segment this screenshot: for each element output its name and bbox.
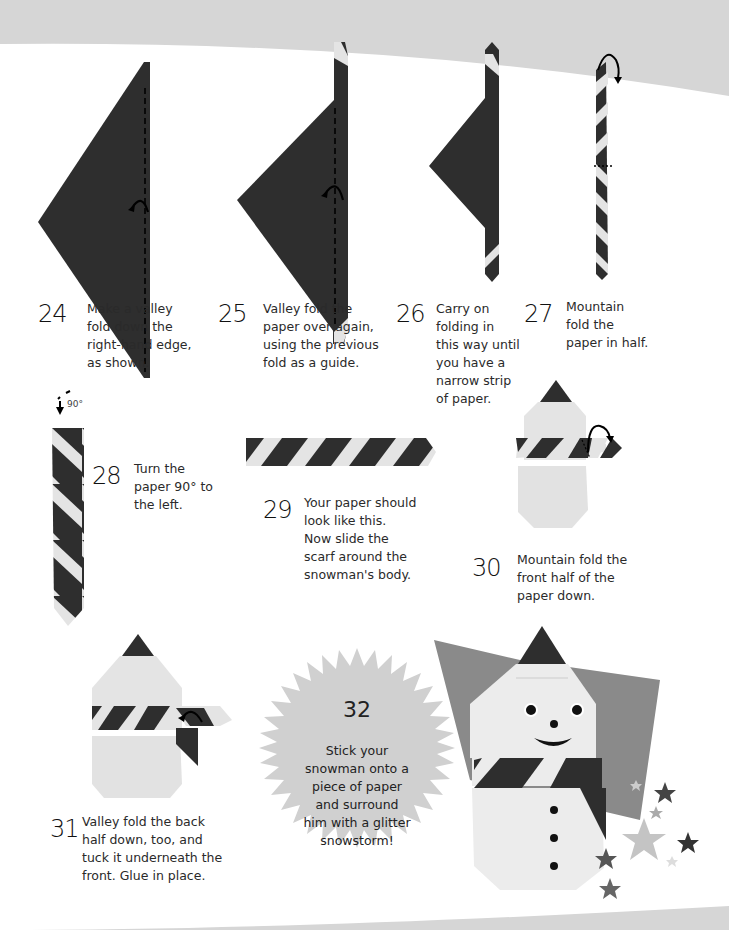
step-24-text: Make a valley fold down the right-hand e… — [87, 300, 192, 372]
step-32-text-block: 32 Stick your snowman onto a piece of pa… — [277, 680, 437, 850]
step-30-number: 30 — [472, 556, 501, 580]
step-25-text: Valley fold the paper over again, using … — [263, 300, 379, 372]
step-29-number: 29 — [263, 498, 292, 522]
left-eye-icon — [525, 704, 537, 716]
step-25-number: 25 — [218, 302, 247, 326]
step-28-text: Turn the paper 90° to the left. — [134, 460, 213, 514]
step-26-diagram — [427, 40, 517, 290]
step-24-number: 24 — [38, 302, 67, 326]
step-27-diagram — [592, 52, 642, 282]
step-29-diagram — [246, 438, 446, 478]
final-snowman-illustration — [430, 620, 729, 900]
step-28-diagram — [52, 428, 92, 643]
step-30-diagram — [516, 380, 656, 540]
right-eye-icon — [571, 704, 583, 716]
step-26-number: 26 — [396, 302, 425, 326]
rotation-label: 90° — [67, 399, 83, 409]
step-27-number: 27 — [524, 302, 553, 326]
step-31-number: 31 — [50, 817, 79, 841]
step-27-text: Mountain fold the paper in half. — [566, 298, 648, 352]
step-26-text: Carry on folding in this way until you h… — [436, 300, 520, 408]
step-29-text: Your paper should look like this. Now sl… — [304, 494, 416, 584]
step-31-diagram — [90, 634, 240, 804]
step-31-text: Valley fold the back half down, too, and… — [82, 813, 222, 885]
step-32-text: Stick your snowman onto a piece of paper… — [303, 743, 410, 848]
button-icon — [550, 862, 558, 870]
button-icon — [550, 806, 558, 814]
button-icon — [550, 834, 558, 842]
step-30-text: Mountain fold the front half of the pape… — [517, 551, 627, 605]
step-28-number: 28 — [92, 464, 121, 488]
step-32-number: 32 — [277, 698, 437, 722]
nose-icon — [550, 720, 558, 728]
